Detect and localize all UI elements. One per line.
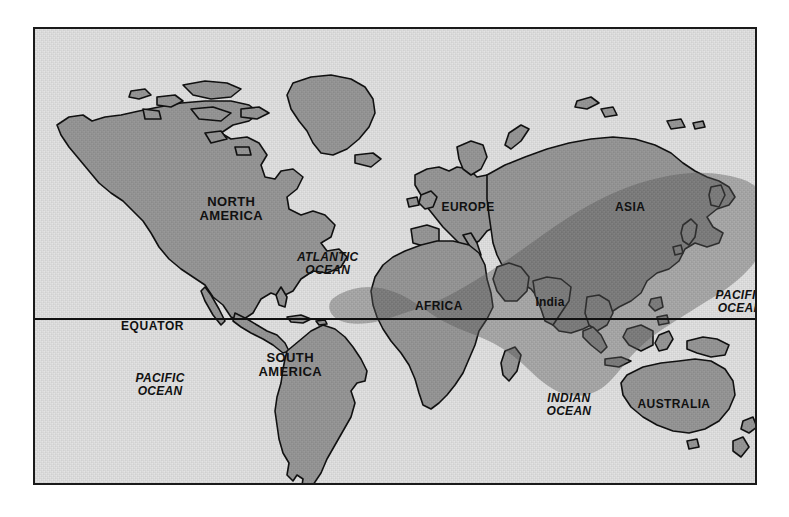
arctic-island-8 [235, 147, 251, 155]
arctic-asia-island-3 [667, 119, 685, 129]
arctic-island-6 [143, 109, 161, 119]
caribbean-island-small [316, 320, 327, 325]
page-root: NORTH AMERICASOUTH AMERICAEUROPEASIAAFRI… [0, 0, 789, 517]
ireland [407, 197, 419, 207]
arctic-asia-island-4 [693, 121, 705, 129]
tasmania [687, 439, 699, 449]
world-map-frame: NORTH AMERICASOUTH AMERICAEUROPEASIAAFRI… [33, 27, 757, 485]
world-map-graphic [35, 29, 755, 483]
arctic-asia-island-2 [601, 107, 617, 117]
